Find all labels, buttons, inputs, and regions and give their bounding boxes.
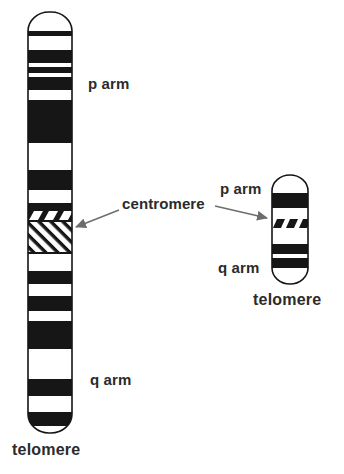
label-p-arm-small: p arm: [220, 181, 261, 196]
label-centromere: centromere: [122, 196, 205, 211]
label-telomere-large: telomere: [12, 442, 80, 458]
chromosome-drawing: [0, 0, 344, 474]
label-telomere-small: telomere: [253, 292, 321, 308]
label-p-arm-large: p arm: [88, 76, 129, 91]
chromosome-structure-diagram: p arm centromere q arm telomere p arm q …: [0, 0, 344, 474]
label-q-arm-small: q arm: [218, 260, 259, 275]
label-q-arm-large: q arm: [90, 372, 131, 387]
